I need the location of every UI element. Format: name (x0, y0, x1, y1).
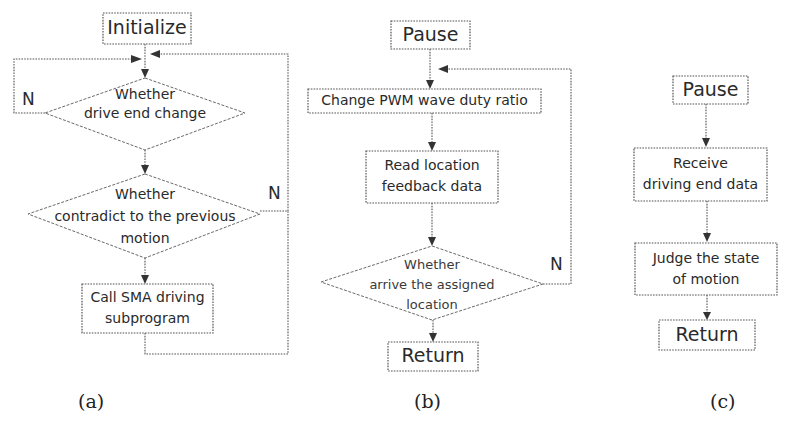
caption-b: (b) (414, 390, 441, 412)
panel-b-shapes (308, 21, 571, 371)
no-label-decision2: N (268, 183, 281, 203)
call-sma-label-line2: subprogram (82, 310, 213, 327)
call-sma-label-line1: Call SMA driving (82, 289, 213, 306)
caption-c: (c) (710, 390, 735, 412)
decision2-label-line3: motion (45, 230, 245, 247)
change-pwm-label: Change PWM wave duty ratio (308, 92, 541, 109)
decision2-label-line1: Whether (45, 186, 245, 203)
arrow-left-icon (438, 65, 448, 73)
receive-label-line1: Receive (634, 155, 767, 172)
decision3-label-line2: arrive the assigned (352, 277, 512, 292)
decision1-label-line1: Whether (70, 86, 220, 103)
read-location-label-line2: feedback data (366, 178, 498, 195)
judge-state-label-line2: of motion (635, 271, 777, 288)
no-label-decision1: N (22, 89, 35, 109)
read-location-label-line1: Read location (366, 157, 498, 174)
decision3-label-line3: location (352, 297, 512, 312)
judge-state-label-line1: Judge the state (635, 250, 777, 267)
receive-label-line2: driving end data (634, 176, 767, 193)
pause-label-b: Pause (391, 23, 470, 45)
flowchart-figure: Initialize Whether drive end change N Wh… (0, 0, 789, 432)
decision1-label-line2: drive end change (70, 105, 220, 122)
initialize-label: Initialize (103, 16, 191, 38)
arrow-right-icon (131, 55, 142, 63)
arrow-left-icon (150, 50, 160, 58)
no-label-decision3: N (550, 254, 563, 274)
panel-c-shapes (634, 76, 777, 350)
return-label-b: Return (388, 344, 478, 366)
decision3-label-line1: Whether (352, 257, 512, 272)
pause-label-c: Pause (673, 78, 748, 100)
decision2-label-line2: contradict to the previous (45, 208, 245, 225)
return-label-c: Return (659, 323, 755, 345)
caption-a: (a) (78, 390, 104, 412)
